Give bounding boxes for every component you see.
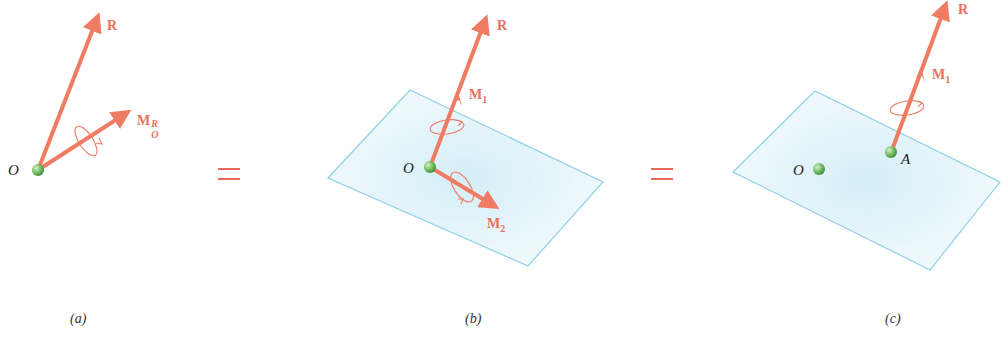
caption-a: (a) [70,312,86,326]
label-m1-c: M1 [932,68,950,85]
equals-sign-2 [651,168,673,180]
point-o-b [424,161,436,173]
label-a-c: A [901,152,910,167]
panel-b [328,18,603,266]
panel-a [32,16,128,176]
label-m2-b: M2 [487,217,505,234]
label-r-b: R [497,19,507,33]
figure-canvas [0,0,1002,337]
label-o-a: O [8,163,19,178]
moment-vector-a [38,112,128,170]
point-o-a [32,164,44,176]
label-o-b: O [403,161,414,176]
label-m-o-r: MRO [137,114,160,128]
plane-c [733,91,1000,270]
label-r-c: R [958,3,968,17]
label-o-c: O [793,163,804,178]
wrench-reduction-figure: R MRO O R M1 M2 O R M1 O A (a) (b) (c) [0,0,1002,337]
caption-c: (c) [885,312,901,326]
label-m1-b: M1 [469,88,487,105]
caption-b: (b) [465,312,481,326]
panel-c [733,4,1000,270]
point-o-c [813,163,825,175]
point-a-c [885,146,897,158]
equals-sign-1 [218,168,240,180]
force-vector-r-a [38,16,98,170]
label-r-a: R [107,19,117,33]
